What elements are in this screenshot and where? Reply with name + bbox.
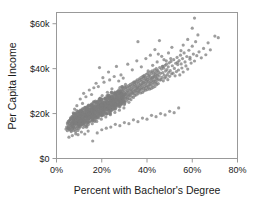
data-point — [149, 54, 152, 57]
data-point — [120, 93, 123, 96]
data-point — [83, 132, 86, 135]
data-point — [192, 52, 195, 55]
data-point — [141, 116, 144, 119]
data-point — [76, 133, 79, 136]
data-point — [136, 40, 139, 43]
data-point — [185, 55, 188, 58]
data-point — [123, 92, 126, 95]
data-point — [157, 52, 160, 55]
x-axis-title: Percent with Bachelor's Degree — [74, 184, 221, 196]
data-point — [186, 68, 189, 71]
data-point — [191, 45, 194, 48]
data-point — [217, 36, 220, 39]
data-point — [122, 76, 125, 79]
data-point — [106, 91, 109, 94]
data-point — [171, 64, 174, 67]
data-point — [167, 51, 170, 54]
data-point — [135, 59, 138, 62]
data-point — [187, 49, 190, 52]
data-point — [159, 112, 162, 115]
data-point — [209, 48, 212, 51]
data-point — [190, 61, 193, 64]
data-point — [188, 56, 191, 59]
data-point — [88, 116, 91, 119]
data-point — [117, 79, 120, 82]
data-point — [110, 87, 113, 90]
data-point — [142, 75, 145, 78]
data-point — [173, 67, 176, 70]
data-point — [107, 112, 110, 115]
data-point — [92, 86, 95, 89]
data-point — [176, 61, 179, 64]
data-point — [166, 78, 169, 81]
y-tick-label: $40k — [30, 64, 50, 74]
data-point — [87, 113, 90, 116]
data-point — [164, 113, 167, 116]
data-point — [75, 104, 78, 107]
data-point — [66, 121, 69, 124]
data-point — [111, 95, 114, 98]
data-point — [145, 118, 148, 121]
data-point — [168, 75, 171, 78]
data-point — [129, 98, 132, 101]
data-point — [151, 64, 154, 67]
data-point — [194, 40, 197, 43]
data-point — [87, 123, 90, 126]
data-point — [118, 124, 121, 127]
data-point — [177, 68, 180, 71]
data-point — [165, 59, 168, 62]
data-point — [74, 130, 77, 133]
data-point — [172, 58, 175, 61]
data-point — [102, 81, 105, 84]
data-point — [120, 85, 123, 88]
data-point — [87, 130, 90, 133]
data-point — [193, 59, 196, 62]
data-point — [169, 60, 172, 63]
data-point — [101, 76, 104, 79]
data-point — [105, 108, 108, 111]
data-point — [107, 70, 110, 73]
data-point — [178, 73, 181, 76]
data-point — [79, 112, 82, 115]
data-point — [67, 136, 70, 139]
data-point — [167, 65, 170, 68]
data-point — [204, 53, 207, 56]
x-tick-label: 0% — [50, 165, 63, 175]
data-point — [136, 120, 139, 123]
data-point — [183, 60, 186, 63]
data-point — [157, 82, 160, 85]
data-point — [173, 111, 176, 114]
data-point — [77, 127, 80, 130]
data-point — [213, 34, 216, 37]
data-point — [115, 65, 118, 68]
data-point — [147, 69, 150, 72]
data-point — [114, 123, 117, 126]
data-point — [197, 50, 200, 53]
data-point — [100, 103, 103, 106]
data-point — [165, 63, 168, 66]
data-point — [94, 111, 97, 114]
data-point — [181, 57, 184, 60]
data-point — [94, 82, 97, 85]
data-point — [169, 69, 172, 72]
x-tick-label: 80% — [228, 165, 246, 175]
data-point — [118, 109, 121, 112]
data-point — [83, 120, 86, 123]
data-point — [119, 103, 122, 106]
scatter-plot-figure: 0%20%40%60%80% $0$20k$40k$60k Percent wi… — [0, 0, 254, 203]
data-point — [96, 131, 99, 134]
data-point — [91, 139, 94, 142]
data-point — [119, 89, 122, 92]
data-point — [79, 97, 82, 100]
data-point — [153, 48, 156, 51]
data-point — [113, 75, 116, 78]
data-point — [67, 126, 70, 129]
data-point — [202, 47, 205, 50]
data-point — [131, 68, 134, 71]
data-point — [102, 111, 105, 114]
y-tick-label: $20k — [30, 109, 50, 119]
data-point — [168, 110, 171, 113]
data-point — [120, 100, 123, 103]
data-point — [144, 57, 147, 60]
data-point — [109, 125, 112, 128]
